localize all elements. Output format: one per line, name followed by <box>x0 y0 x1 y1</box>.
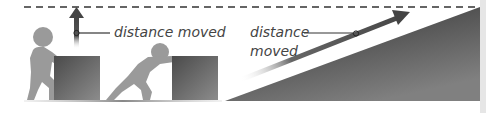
box-left <box>54 56 100 100</box>
up-arrow-icon <box>69 7 110 49</box>
work-distance-diagram: distance moved distance moved <box>0 0 486 113</box>
ground-line-left <box>24 100 222 102</box>
person-pushing-icon <box>106 43 174 100</box>
distance-moved-label-slope-line2: moved <box>250 43 298 60</box>
box-middle <box>172 56 218 100</box>
distance-moved-label-slope-line1: distance <box>250 24 309 41</box>
distance-moved-label-vertical: distance moved <box>114 24 226 41</box>
diagram-graphic <box>0 0 486 113</box>
page-edge-strip <box>480 0 486 113</box>
